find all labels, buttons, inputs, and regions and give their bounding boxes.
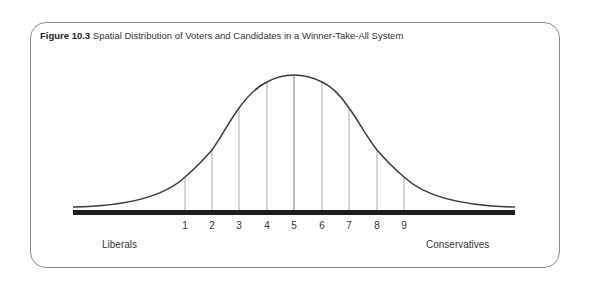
tick-label-1: 1	[182, 220, 188, 231]
tick-label-9: 9	[401, 220, 407, 231]
conservatives-label: Conservatives	[426, 239, 489, 250]
tick-label-6: 6	[319, 220, 325, 231]
tick-label-7: 7	[346, 220, 352, 231]
tick-label-2: 2	[209, 220, 215, 231]
liberals-label: Liberals	[102, 239, 137, 250]
tick-label-4: 4	[264, 220, 270, 231]
tick-label-5: 5	[291, 220, 297, 231]
bell-curve-plot	[0, 0, 590, 283]
tick-label-8: 8	[374, 220, 380, 231]
tick-label-3: 3	[236, 220, 242, 231]
ideology-axis-bar	[73, 210, 515, 215]
